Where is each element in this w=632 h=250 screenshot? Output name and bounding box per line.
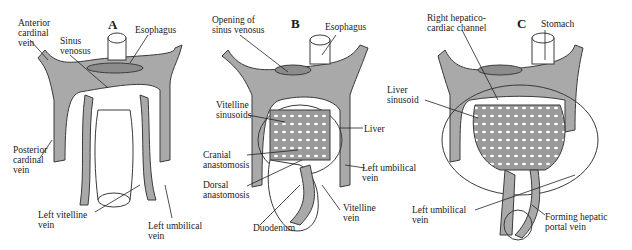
label-liver-sinusoid: Liver sinusoid (387, 85, 419, 105)
label-posterior-cardinal-vein: Posterior cardinal vein (13, 145, 47, 175)
label-left-umbilical-vein-c: Left umbilical vein (412, 205, 466, 225)
label-left-umbilical-vein-b: Left umbilical vein (362, 163, 416, 183)
label-left-umbilical-vein-a: Left umbilical vein (148, 221, 202, 241)
label-sinus-venosus: Sinus venosus (60, 36, 91, 56)
panel-label-c: C (517, 16, 526, 32)
panel-label-b: B (291, 16, 300, 32)
label-esophagus-b: Esophagus (325, 22, 366, 32)
label-liver: Liver (364, 124, 385, 134)
label-forming-hepatic-portal-vein: Forming hepatic portal vein (545, 212, 608, 232)
panel-label-a: A (108, 17, 117, 33)
label-duodenum: Duodenum (253, 223, 295, 233)
label-vitelline-sinusoids: Vitelline sinusoids (216, 100, 251, 120)
label-opening-sinus-venosus: Opening of sinus venosus (212, 15, 265, 35)
label-vitelline-vein: Vitelline vein (343, 203, 376, 223)
diagram-artwork (0, 0, 632, 250)
panel-b-veins (222, 35, 368, 231)
panel-a-veins (38, 33, 182, 207)
label-stomach: Stomach (541, 19, 574, 29)
label-anterior-cardinal-vein: Anterior cardinal vein (18, 18, 50, 48)
label-left-vitelline-vein: Left vitelline vein (38, 210, 87, 230)
label-right-hepatico-cardiac-channel: Right hepatico- cardiac channel (427, 13, 486, 33)
label-dorsal-anastomosis: Dorsal anastomosis (203, 180, 249, 200)
label-esophagus-a: Esophagus (135, 25, 176, 35)
label-cranial-anastomosis: Cranial anastomosis (203, 150, 249, 170)
